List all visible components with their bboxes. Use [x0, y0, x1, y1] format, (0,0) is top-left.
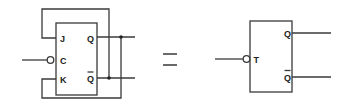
clock-inversion-bubble — [47, 57, 54, 64]
jk-flipflop: J C K Q Q — [22, 9, 135, 98]
q-junction-dot — [119, 35, 123, 39]
k-input-label: K — [60, 75, 67, 85]
t-inversion-bubble — [243, 56, 250, 63]
qbar-junction-dot — [107, 76, 111, 80]
t-flipflop: T Q Q — [215, 21, 331, 92]
qbar-output-label: Q — [87, 74, 94, 84]
c-input-label: C — [60, 56, 67, 66]
qbar-output-label: Q — [284, 73, 291, 83]
q-output-label: Q — [284, 29, 291, 39]
q-output-label: Q — [87, 34, 94, 44]
t-input-label: T — [254, 55, 260, 65]
equals-sign — [163, 54, 177, 65]
flipflop-equivalence-diagram: J C K Q Q T Q Q — [0, 0, 353, 111]
j-input-label: J — [60, 34, 65, 44]
